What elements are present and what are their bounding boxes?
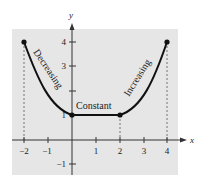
x-tick-label: 4	[165, 146, 170, 156]
x-tick-label: 1	[94, 146, 99, 156]
y-axis-label: y	[68, 10, 73, 20]
x-axis-arrow-icon	[180, 138, 187, 143]
x-tick-label: −1	[42, 146, 52, 156]
x-tick-label: −2	[19, 146, 29, 156]
x-tick-label: 2	[118, 146, 123, 156]
constant-label: Constant	[76, 100, 112, 111]
y-axis-arrow-icon	[70, 23, 75, 30]
y-tick-label: −1	[56, 159, 66, 169]
y-tick-label: 4	[62, 37, 67, 47]
x-tick-label: 3	[142, 146, 147, 156]
x-axis-label: x	[189, 135, 194, 145]
y-tick-label: 3	[62, 61, 67, 71]
function-graph: −2 −1 1 2 3 4 4 3 1 −1 y x Decreasing Co…	[0, 0, 204, 175]
